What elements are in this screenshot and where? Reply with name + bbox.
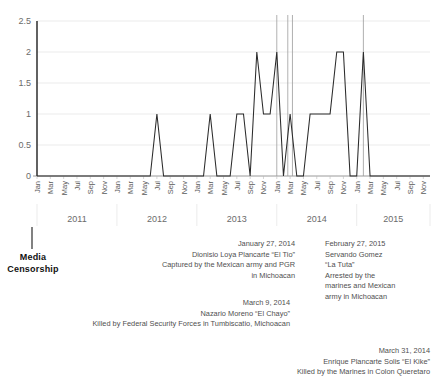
media-censorship-label: Media Censorship [0, 251, 66, 275]
x-axis-month-tick: Nov [180, 181, 189, 195]
x-axis-month-tick: Nov [100, 181, 109, 195]
x-axis-month-tick: Jul [73, 181, 82, 191]
x-axis-year-label: 2015 [383, 214, 403, 224]
x-axis-month-tick: Mar [206, 181, 215, 194]
annotation-line: Servando Gomez [325, 250, 435, 261]
censorship-line-1: Media [0, 251, 66, 263]
x-axis-year-label: 2012 [147, 214, 167, 224]
x-axis-month-tick: May [140, 181, 149, 195]
x-axis-month-tick: May [220, 181, 229, 195]
annotation-line: February 27, 2015 [325, 239, 435, 250]
x-axis-month-tick: Sep [246, 181, 255, 194]
annotation-line: army in Michoacan [325, 292, 435, 303]
x-axis-year-label: 2014 [307, 214, 327, 224]
annotation-line: Dionisio Loya Plancarte “El Tio” [70, 250, 295, 261]
x-axis-month-tick: Jul [313, 181, 322, 191]
x-axis-month-tick: May [299, 181, 308, 195]
y-axis-tick: 1.5 [18, 78, 31, 88]
annotation-line: “La Tuta” [325, 260, 435, 271]
y-axis-tick: 0.5 [18, 140, 31, 150]
x-axis-month-tick: May [379, 181, 388, 195]
annotation-line: Enrique Plancarte Solis “El Kike” [100, 357, 430, 368]
x-axis-month-tick: Jan [353, 181, 362, 193]
x-axis-month-tick: Jul [393, 181, 402, 191]
x-axis-month-tick: Jan [113, 181, 122, 193]
annotation-line: Captured by the Mexican army and PGR [70, 260, 295, 271]
x-axis-month-tick: Mar [46, 181, 55, 194]
x-axis-year-label: 2011 [67, 214, 86, 224]
x-axis-month-tick: Sep [166, 181, 175, 194]
annotation-el-chayo: March 9, 2014 Nazario Moreno “El Chayo” … [0, 298, 290, 330]
y-axis-tick: 1 [26, 109, 31, 119]
x-axis-month-tick: Sep [406, 181, 415, 194]
annotation-line: March 31, 2014 [100, 346, 430, 357]
x-axis-month-tick: Sep [326, 181, 335, 194]
x-axis-month-tick: Jul [233, 181, 242, 191]
chart-container: 00.511.522.5JanMarMayJulSepNovJanMarMayJ… [0, 0, 435, 230]
x-axis-month-tick: Sep [86, 181, 95, 194]
annotation-la-tuta: February 27, 2015 Servando Gomez “La Tut… [325, 239, 435, 303]
y-axis-tick: 2 [26, 47, 31, 57]
timeseries-chart: 00.511.522.5JanMarMayJulSepNovJanMarMayJ… [0, 0, 435, 230]
x-axis-month-tick: Nov [259, 181, 268, 195]
y-axis-tick: 2.5 [18, 16, 31, 26]
annotation-line: Killed by the Marines in Colon Queretaro [100, 367, 430, 378]
x-axis-month-tick: Jan [33, 181, 42, 193]
annotation-line: March 9, 2014 [0, 298, 290, 309]
annotation-el-kike: March 31, 2014 Enrique Plancarte Solis “… [100, 346, 430, 378]
x-axis-month-tick: Jul [153, 181, 162, 191]
x-axis-month-tick: Jan [273, 181, 282, 193]
x-axis-year-label: 2013 [227, 214, 247, 224]
y-axis-tick: 0 [26, 171, 31, 181]
annotation-el-tio: January 27, 2014 Dionisio Loya Plancarte… [70, 239, 295, 281]
annotation-line: Arrested by the [325, 271, 435, 282]
x-axis-month-tick: Nov [419, 181, 428, 195]
censorship-line-2: Censorship [0, 263, 66, 275]
x-axis-month-tick: Mar [366, 181, 375, 194]
annotation-line: January 27, 2014 [70, 239, 295, 250]
annotation-line: in Michoacan [70, 271, 295, 282]
x-axis-month-tick: Nov [339, 181, 348, 195]
annotations-layer: Media Censorship January 27, 2014 Dionis… [0, 225, 435, 392]
x-axis-month-tick: Jan [193, 181, 202, 193]
annotation-line: marines and Mexican [325, 281, 435, 292]
annotation-line: Killed by Federal Security Forces in Tum… [0, 319, 290, 330]
x-axis-month-tick: Mar [126, 181, 135, 194]
x-axis-month-tick: Mar [286, 181, 295, 194]
x-axis-month-tick: May [60, 181, 69, 195]
annotation-line: Nazario Moreno “El Chayo” [0, 309, 290, 320]
